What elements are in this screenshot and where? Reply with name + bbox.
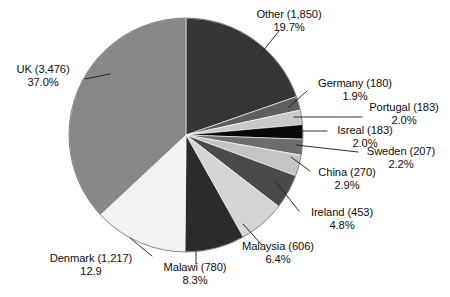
slice-label-other-name: Other (1,850) — [238, 8, 340, 21]
slice-label-uk-name: UK (3,476) — [2, 63, 84, 76]
slice-label-portugal-name: Portugal (183) — [359, 101, 449, 114]
slice-label-china-name: China (270) — [305, 166, 389, 179]
slice-label-ireland: Ireland (453) 4.8% — [295, 206, 389, 232]
slice-label-sweden-name: Sweden (207) — [355, 145, 447, 158]
slice-label-malaysia: Malaysia (606) 6.4% — [228, 240, 328, 266]
slice-label-germany-name: Germany (180) — [305, 77, 405, 90]
slice-label-germany: Germany (180) 1.9% — [305, 77, 405, 103]
slice-label-other: Other (1,850) 19.7% — [238, 8, 340, 34]
slice-label-china-percent: 2.9% — [305, 179, 389, 192]
slice-label-denmark: Denmark (1,217) 12.9 — [36, 252, 146, 278]
slice-label-other-percent: 19.7% — [238, 21, 340, 34]
slice-label-malaysia-percent: 6.4% — [228, 253, 328, 266]
slice-label-malawi-name: Malawi (780) — [148, 261, 242, 274]
slice-label-ireland-name: Ireland (453) — [295, 206, 389, 219]
slice-label-china: China (270) 2.9% — [305, 166, 389, 192]
slice-label-denmark-name: Denmark (1,217) — [36, 252, 146, 265]
slice-label-malaysia-name: Malaysia (606) — [228, 240, 328, 253]
slice-label-malawi: Malawi (780) 8.3% — [148, 261, 242, 287]
slice-label-ireland-percent: 4.8% — [295, 219, 389, 232]
pie-chart: Other (1,850) 19.7% UK (3,476) 37.0% Ger… — [0, 0, 450, 297]
slice-label-isreal-name: Isreal (183) — [325, 124, 405, 137]
slice-label-malawi-percent: 8.3% — [148, 274, 242, 287]
slice-label-uk: UK (3,476) 37.0% — [2, 63, 84, 89]
slice-label-uk-percent: 37.0% — [2, 76, 84, 89]
pie-slice-group — [69, 18, 303, 252]
slice-label-denmark-percent: 12.9 — [36, 265, 146, 278]
